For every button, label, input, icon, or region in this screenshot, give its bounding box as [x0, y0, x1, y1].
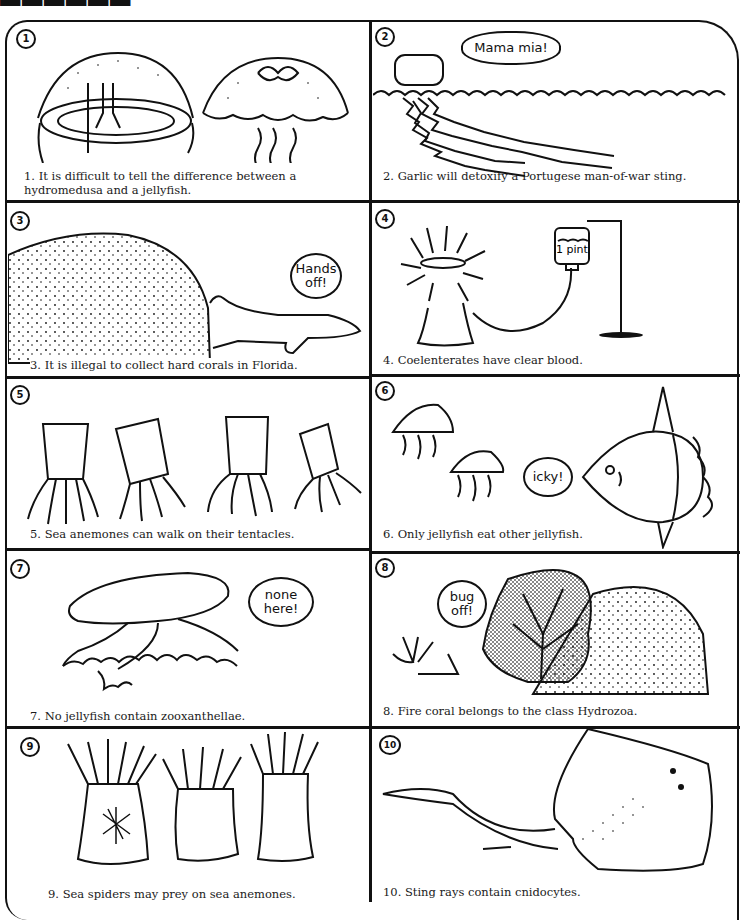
portuguese-man-of-war-illustration	[373, 43, 738, 183]
page-title-cropped: ██████	[0, 0, 748, 6]
sting-ray-illustration	[373, 729, 738, 902]
panel-10: 10 10. Sting rays contain cnidocytes.	[373, 729, 738, 902]
speech-bubble: bug off!	[437, 580, 487, 628]
panel-caption: 1. It is difficult to tell the differenc…	[24, 169, 364, 197]
panel-caption: 5. Sea anemones can walk on their tentac…	[30, 527, 360, 541]
hydromedusa-and-jellyfish-illustration	[18, 33, 358, 163]
fire-coral-illustration	[373, 554, 738, 725]
panel-caption: 2. Garlic will detoxify a Portugese man-…	[383, 169, 733, 183]
panel-caption: 8. Fire coral belongs to the class Hydro…	[383, 704, 733, 718]
panel-caption: 10. Sting rays contain cnidocytes.	[383, 885, 683, 899]
panel-1: 1 1. It is difficult to tell the differe…	[8, 23, 368, 199]
walking-anemones-illustration	[8, 379, 368, 547]
speech-bubble: icky!	[523, 457, 573, 497]
panel-caption: 7. No jellyfish contain zooxanthellae.	[30, 709, 360, 723]
panel-caption: 4. Coelenterates have clear blood.	[383, 353, 733, 367]
panel-3: 3 Hands off! 3. It is illegal to collect…	[8, 203, 368, 375]
panel-4: 4 1 pint 4. Coelenterates have clear blo…	[373, 203, 738, 373]
anemone-with-iv-bag-illustration: 1 pint	[373, 203, 738, 373]
panel-9: 9 9. Sea spiders may prey on sea anemone…	[8, 729, 368, 902]
panel-caption: 6. Only jellyfish eat other jellyfish.	[383, 527, 633, 541]
panel-caption: 9. Sea spiders may prey on sea anemones.	[48, 887, 358, 901]
center-divider	[369, 20, 372, 902]
panel-5: 5 5. Sea anemones can walk on their tent…	[8, 379, 368, 547]
speech-bubble: Hands off!	[290, 253, 342, 299]
panel-7: 7 none here! 7. No jellyfish contain zoo…	[8, 551, 368, 725]
upside-down-jellyfish-illustration	[8, 551, 368, 725]
panel-2: 2 Mama mia! 2. Garlic will detoxify a Po…	[373, 23, 738, 199]
iv-bag-label: 1 pint	[556, 243, 589, 256]
sea-anemones-with-sea-spider-illustration	[8, 729, 368, 902]
panel-6: 6 icky! 6. Only jellyfish eat other jell…	[373, 377, 738, 549]
panel-caption: 3. It is illegal to collect hard corals …	[30, 358, 360, 372]
speech-bubble: none here!	[248, 577, 314, 627]
panel-8: 8 bug off! 8. Fire coral belongs to the …	[373, 554, 738, 725]
